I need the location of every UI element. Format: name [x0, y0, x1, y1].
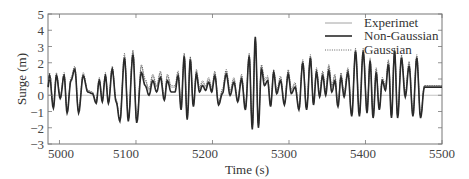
legend-label-non-gaussian: Non-Gaussian — [364, 28, 439, 43]
y-tick-label: −3 — [30, 137, 44, 152]
x-tick-label: 5100 — [113, 146, 139, 161]
surge-time-series-chart: 5 4 3 2 1 0 −1 −2 −3 5000 5100 5200 5300… — [0, 0, 469, 179]
y-axis-title: Surge (m) — [14, 53, 29, 105]
x-tick-label: 5200 — [192, 146, 218, 161]
x-axis-tick-labels: 5000 5100 5200 5300 5400 5500 — [48, 146, 455, 161]
x-tick-label: 5500 — [429, 146, 455, 161]
x-tick-label: 5000 — [48, 146, 74, 161]
y-tick-label: −2 — [30, 121, 44, 136]
y-axis-tick-labels: 5 4 3 2 1 0 −1 −2 −3 — [30, 7, 44, 152]
y-tick-label: 3 — [38, 40, 45, 55]
x-axis-title: Time (s) — [225, 162, 269, 177]
y-tick-label: 4 — [38, 23, 45, 38]
y-tick-label: −1 — [30, 105, 44, 120]
y-tick-label: 0 — [38, 88, 45, 103]
x-tick-label: 5300 — [271, 146, 297, 161]
y-tick-label: 2 — [38, 56, 45, 71]
legend-label-gaussian: Gaussian — [364, 42, 412, 57]
y-tick-label: 1 — [38, 72, 45, 87]
x-tick-label: 5400 — [350, 146, 376, 161]
y-tick-label: 5 — [38, 7, 45, 22]
